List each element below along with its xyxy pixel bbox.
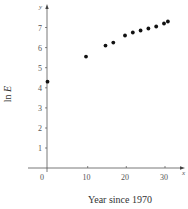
xtick-label: 30 <box>160 173 168 182</box>
xtick-label: 10 <box>83 173 91 182</box>
y-axis-arrow-icon <box>45 4 48 9</box>
data-point <box>123 34 127 38</box>
data-point <box>46 80 50 84</box>
ytick-label: 1 <box>38 144 42 153</box>
ytick-label: 6 <box>38 44 42 53</box>
ytick-label: 5 <box>38 64 42 73</box>
data-point <box>166 20 170 24</box>
data-point <box>131 31 135 35</box>
scatter-chart: x y 7 6 5 4 3 2 1 0 10 20 30 Year since … <box>0 0 188 209</box>
data-point <box>111 41 115 45</box>
data-point <box>154 25 158 29</box>
data-point <box>147 27 151 31</box>
ytick-label: 3 <box>38 104 42 113</box>
x-axis-letter: x <box>181 169 186 177</box>
x-tick-labels: 0 10 20 30 <box>40 173 168 182</box>
x-axis-title: Year since 1970 <box>88 194 152 205</box>
y-axis-title: ln E <box>2 86 13 102</box>
y-axis-title-var: E <box>2 86 13 93</box>
data-point <box>84 55 88 59</box>
data-point <box>162 22 166 26</box>
ytick-label: 7 <box>38 24 42 33</box>
data-point <box>104 44 108 48</box>
y-axis-letter: y <box>38 3 43 11</box>
data-points <box>46 20 170 84</box>
data-point <box>139 29 143 33</box>
y-tick-labels: 7 6 5 4 3 2 1 <box>38 24 42 153</box>
ytick-label: 2 <box>38 124 42 133</box>
xtick-label: 20 <box>121 173 129 182</box>
y-axis-title-prefix: ln <box>2 92 13 102</box>
ytick-label: 4 <box>38 84 42 93</box>
xtick-label: 0 <box>40 173 44 182</box>
